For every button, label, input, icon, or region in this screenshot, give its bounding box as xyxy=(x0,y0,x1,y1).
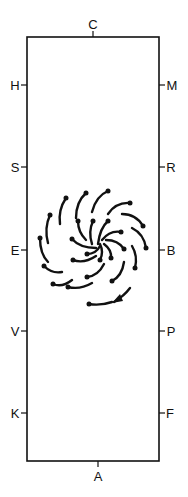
label-bottom: A xyxy=(94,469,103,484)
label-left-e: E xyxy=(11,243,20,258)
label-right-f: F xyxy=(166,406,174,421)
label-right-m: M xyxy=(167,78,178,93)
label-left-s: S xyxy=(11,160,20,175)
label-left-k: K xyxy=(11,406,20,421)
label-right-b: B xyxy=(167,243,176,258)
label-right-p: P xyxy=(167,324,176,339)
label-right-r: R xyxy=(166,160,175,175)
label-left-h: H xyxy=(10,78,19,93)
spiral-pattern xyxy=(40,191,146,305)
label-left-v: V xyxy=(11,324,20,339)
spiral-diagram: C A H S E V K M R B P F xyxy=(0,0,188,497)
label-top: C xyxy=(88,17,97,32)
